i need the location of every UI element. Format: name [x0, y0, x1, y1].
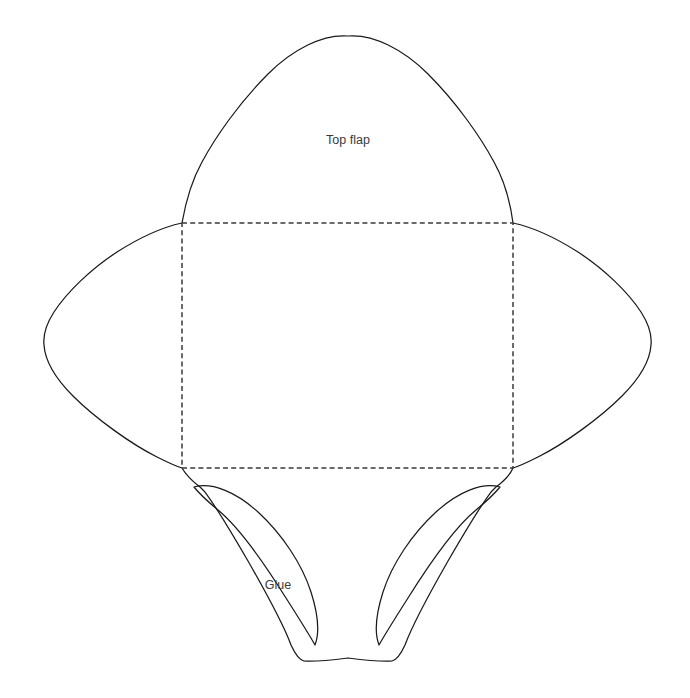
glue-flap-label: Glue [265, 578, 291, 592]
glue-flap-left-cut-path [194, 486, 318, 645]
envelope-dieline-svg: Top flap Glue [0, 0, 690, 698]
envelope-template-canvas: Top flap Glue [0, 0, 690, 698]
glue-flap-right-cut-path [376, 486, 500, 645]
top-flap-label: Top flap [326, 133, 370, 147]
fold-rectangle-dashed [182, 223, 513, 468]
envelope-outline-cut-path [44, 36, 651, 661]
